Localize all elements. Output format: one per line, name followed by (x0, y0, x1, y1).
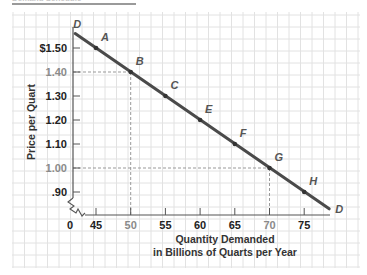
x-tick-label: 65 (229, 219, 241, 231)
point-label-B: B (136, 55, 144, 67)
y-tick-label: 1.00 (46, 162, 67, 174)
x-axis-title-line1: Quantity Demanded (175, 233, 274, 245)
x-axis-title-line2: in Billions of Quarts per Year (153, 246, 297, 258)
point-label-G: G (275, 151, 284, 163)
point-E (198, 118, 203, 123)
point-B (128, 70, 133, 75)
x-tick-label: 60 (194, 219, 206, 231)
curve-label-top: D (73, 18, 81, 30)
point-G (267, 166, 272, 171)
curve-label-bottom: D (335, 203, 343, 215)
y-axis-title: Price per Quart (25, 84, 37, 160)
y-tick-label: 1.40 (46, 66, 67, 78)
guide-lines (73, 72, 270, 215)
point-label-F: F (240, 127, 247, 139)
point-C (163, 94, 168, 99)
point-A (94, 46, 99, 51)
axis-labels: $1.501.401.301.201.101.00.90045505560657… (25, 42, 310, 258)
x-tick-label: 75 (298, 219, 310, 231)
x-tick-label: 70 (263, 219, 275, 231)
y-tick-label: .90 (52, 186, 67, 198)
point-F (233, 142, 238, 147)
y-tick-label: 1.30 (46, 90, 67, 102)
demand-curve-chart: DDABCEFGH $1.501.401.301.201.101.00.9004… (0, 0, 367, 275)
x-tick-label: 55 (159, 219, 171, 231)
y-tick-label: 1.10 (46, 138, 67, 150)
x-tick-label: 0 (67, 219, 73, 231)
point-label-A: A (100, 31, 109, 43)
y-tick-label: $1.50 (39, 42, 67, 54)
point-label-C: C (170, 79, 179, 91)
x-tick-label: 50 (125, 219, 137, 231)
y-tick-label: 1.20 (46, 114, 67, 126)
point-label-H: H (309, 175, 318, 187)
x-tick-label: 45 (90, 219, 102, 231)
point-H (302, 190, 307, 195)
point-label-E: E (205, 103, 213, 115)
